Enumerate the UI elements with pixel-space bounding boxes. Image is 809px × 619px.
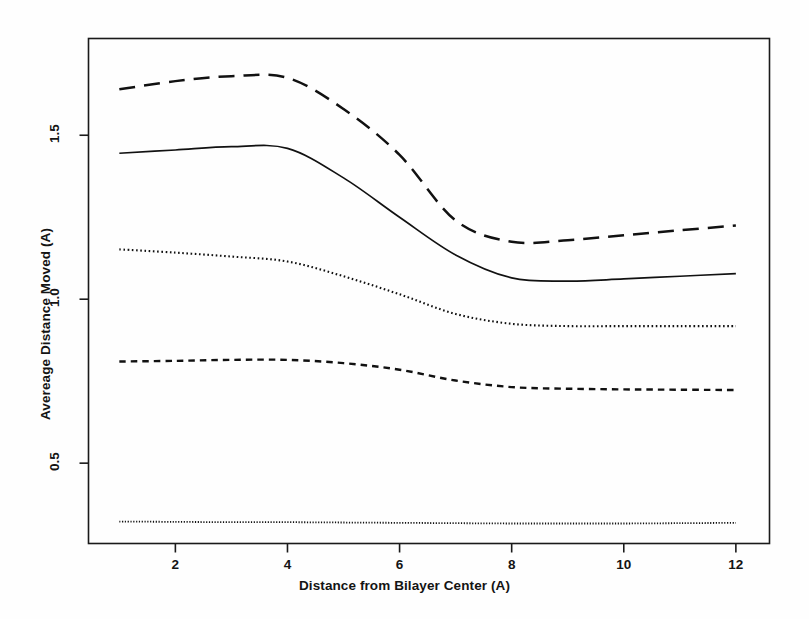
y-tick-label: 0.5: [46, 432, 61, 492]
x-tick-label: 12: [706, 557, 766, 572]
chart-figure: Distance from Bilayer Center (A) Avereag…: [0, 0, 809, 619]
plot-area: [0, 0, 809, 619]
series-line-series-3-dotted: [119, 249, 736, 326]
x-tick-label: 4: [257, 557, 317, 572]
x-tick-label: 6: [370, 557, 430, 572]
x-tick-label: 10: [594, 557, 654, 572]
x-tick-label: 2: [145, 557, 205, 572]
x-axis-ticks: [175, 544, 735, 553]
series-line-series-5-fine-dotted: [119, 522, 736, 524]
plot-frame: [89, 39, 770, 544]
series-line-series-4-short-dash: [119, 360, 736, 390]
series-line-series-2-solid: [119, 145, 736, 281]
x-tick-label: 8: [482, 557, 542, 572]
x-axis-title: Distance from Bilayer Center (A): [0, 578, 809, 593]
y-axis-ticks: [80, 135, 89, 463]
y-tick-label: 1.5: [46, 104, 61, 164]
series-line-series-1-long-dash: [119, 75, 736, 243]
y-tick-label: 1.0: [46, 268, 61, 328]
data-series-group: [119, 75, 736, 524]
